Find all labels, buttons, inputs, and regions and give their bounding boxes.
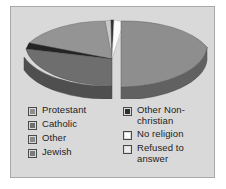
legend-item-other-non-christian[interactable]: Other Non- christian <box>123 105 215 126</box>
legend-swatch-other <box>28 135 37 144</box>
pie-chart-graphic <box>11 7 215 99</box>
pie-chart-panel: Protestant Catholic Other Jewish <box>10 6 215 178</box>
legend-swatch-other-non-christian <box>123 107 132 116</box>
legend-label-other-non-christian: Other Non- christian <box>137 105 185 126</box>
pie-chart-svg <box>11 7 215 99</box>
legend-label-protestant: Protestant <box>42 105 86 116</box>
legend-swatch-protestant <box>28 107 37 116</box>
legend-column-left: Protestant Catholic Other Jewish <box>11 101 115 178</box>
legend-swatch-refused-to-answer <box>123 145 132 154</box>
legend-swatch-no-religion <box>123 131 132 140</box>
legend-swatch-jewish <box>28 149 37 158</box>
legend-item-refused-to-answer[interactable]: Refused to answer <box>123 143 215 164</box>
legend-item-protestant[interactable]: Protestant <box>28 105 115 116</box>
legend-swatch-catholic <box>28 121 37 130</box>
legend-label-no-religion: No religion <box>137 129 184 140</box>
legend-label-jewish: Jewish <box>42 147 72 158</box>
legend-label-refused-to-answer: Refused to answer <box>137 143 184 164</box>
pie-chart-legend: Protestant Catholic Other Jewish <box>11 101 215 178</box>
legend-item-catholic[interactable]: Catholic <box>28 119 115 130</box>
legend-item-no-religion[interactable]: No religion <box>123 129 215 140</box>
legend-label-other: Other <box>42 133 66 144</box>
legend-column-right: Other Non- christian No religion Refused… <box>115 101 215 178</box>
legend-label-catholic: Catholic <box>42 119 77 130</box>
legend-item-other[interactable]: Other <box>28 133 115 144</box>
legend-item-jewish[interactable]: Jewish <box>28 147 115 158</box>
